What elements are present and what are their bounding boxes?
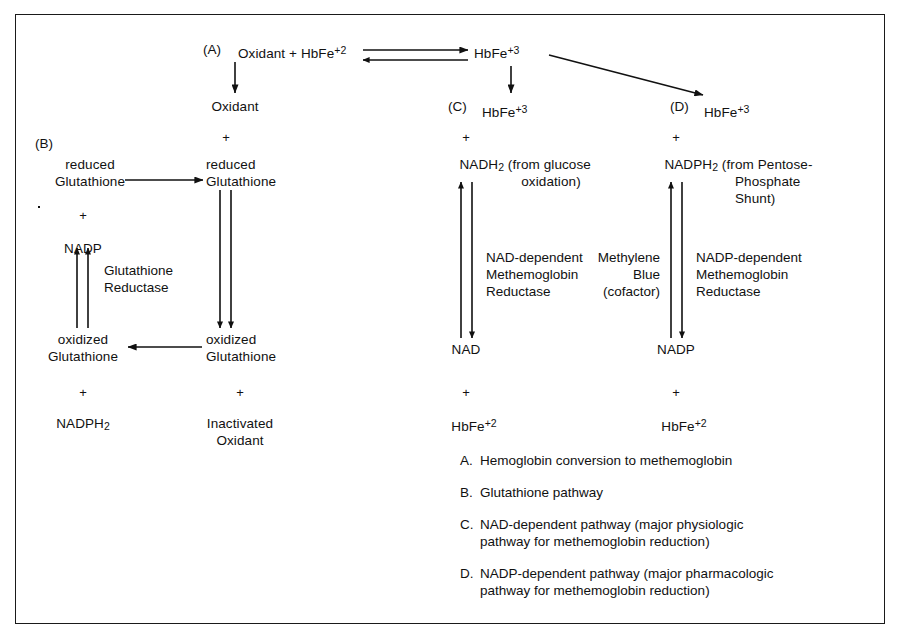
reduced-glutathione-left-line1: reduced xyxy=(65,156,115,173)
legend-key-c: C. xyxy=(460,516,480,533)
nad-node: NAD xyxy=(452,341,481,358)
reactants-label: Oxidant + HbFe+2 xyxy=(238,42,346,62)
nadph2-subscript: 2 xyxy=(104,420,110,432)
c-charge: +3 xyxy=(515,103,527,115)
nadph2-left-node: NADPH2 xyxy=(56,415,110,435)
plus-b-right-lower: + xyxy=(236,386,244,399)
nadh2-note-line1: (from glucose xyxy=(504,156,591,173)
nad-reductase-line1: NAD-dependent xyxy=(486,250,583,265)
section-b-tag: (B) xyxy=(35,136,53,151)
legend-key-d: D. xyxy=(460,565,480,582)
legend-text-a: Hemoglobin conversion to methemoglobin xyxy=(480,452,732,469)
nadph2-donor-node: NADPH2 xyxy=(664,156,718,176)
inactivated-oxidant-line2: Oxidant xyxy=(216,432,263,449)
plus-b-left-upper: + xyxy=(79,209,87,222)
reduced-glutathione-right-line2: Glutathione xyxy=(206,173,276,190)
nadh2-note-line2: oxidation) xyxy=(521,173,581,190)
nadp-acceptor-node: NADP xyxy=(657,341,695,358)
legend-text-b: Glutathione pathway xyxy=(480,484,603,501)
nadph2-note-line3: Shunt) xyxy=(735,190,775,207)
plus-d-upper: + xyxy=(672,131,680,144)
product-label: HbFe+3 xyxy=(474,42,519,62)
legend-key-a: A. xyxy=(460,452,480,469)
nadp-left-node: NADP xyxy=(64,240,102,257)
product-text: HbFe xyxy=(474,46,507,61)
glutathione-reductase-label: GlutathioneReductase xyxy=(104,262,173,296)
legend-text-d: NADP-dependent pathway (major pharmacolo… xyxy=(480,565,773,599)
d-species-text: HbFe xyxy=(704,105,737,120)
nadh2-node: NADH2 xyxy=(459,156,504,176)
d-product-text: HbFe xyxy=(661,419,694,434)
oxidized-glutathione-left-line1: oxidized xyxy=(58,331,108,348)
c-hbfe-node: HbFe+3 xyxy=(482,101,527,121)
nadp-reductase-line3: Reductase xyxy=(696,284,761,299)
section-c-tag: (C) xyxy=(448,99,467,114)
plus-c-upper: + xyxy=(462,131,470,144)
methylene-blue-label: MethyleneBlue(cofactor) xyxy=(598,249,660,300)
legend-item-c: C. NAD-dependent pathway (major physiolo… xyxy=(460,516,880,550)
methylene-blue-line2: Blue xyxy=(633,267,660,282)
methylene-blue-line3: (cofactor) xyxy=(603,284,660,299)
oxidant-node: Oxidant xyxy=(211,98,258,115)
reduced-glutathione-left-line2: Glutathione xyxy=(55,173,125,190)
diagram-figure: (A) Oxidant + HbFe+2 HbFe+3 Oxidant (C) … xyxy=(0,0,900,644)
nadph2-note-line2: Phosphate xyxy=(735,173,800,190)
d-hbfe-node: HbFe+3 xyxy=(704,101,749,121)
section-d-tag: (D) xyxy=(670,99,689,114)
legend-item-a: A. Hemoglobin conversion to methemoglobi… xyxy=(460,452,880,469)
nadh2-text: NADH xyxy=(459,157,498,172)
d-product-node: HbFe+2 xyxy=(661,415,706,435)
reactants-text: Oxidant + HbFe xyxy=(238,46,334,61)
nad-reductase-line3: Reductase xyxy=(486,284,551,299)
nadp-reductase-line1: NADP-dependent xyxy=(696,250,802,265)
d-charge: +3 xyxy=(737,103,749,115)
nad-reductase-label: NAD-dependentMethemoglobinReductase xyxy=(486,249,583,300)
nadph2-text: NADPH xyxy=(56,416,104,431)
glutathione-reductase-line1: Glutathione xyxy=(104,263,173,278)
product-charge: +3 xyxy=(507,44,519,56)
plus-b-left-lower: + xyxy=(79,386,87,399)
legend: A. Hemoglobin conversion to methemoglobi… xyxy=(460,452,880,614)
methylene-blue-line1: Methylene xyxy=(598,250,660,265)
nad-reductase-line2: Methemoglobin xyxy=(486,267,578,282)
inactivated-oxidant-line1: Inactivated xyxy=(207,415,273,432)
legend-text-c: NAD-dependent pathway (major physiologic… xyxy=(480,516,743,550)
nadph2-note-line1: (from Pentose- xyxy=(718,156,813,173)
plus-c-lower: + xyxy=(462,386,470,399)
speck-artifact xyxy=(38,206,40,208)
oxidized-glutathione-right-line2: Glutathione xyxy=(206,348,276,365)
c-product-node: HbFe+2 xyxy=(451,415,496,435)
legend-item-d: D. NADP-dependent pathway (major pharmac… xyxy=(460,565,880,599)
oxidized-glutathione-right-line1: oxidized xyxy=(206,331,256,348)
c-species-text: HbFe xyxy=(482,105,515,120)
oxidized-glutathione-left-line2: Glutathione xyxy=(48,348,118,365)
reduced-glutathione-right-line1: reduced xyxy=(206,156,256,173)
section-a-tag: (A) xyxy=(203,42,221,57)
c-product-charge: +2 xyxy=(485,417,497,429)
plus-d-lower: + xyxy=(672,386,680,399)
nadp-reductase-label: NADP-dependentMethemoglobinReductase xyxy=(696,249,802,300)
nadph2-donor-text: NADPH xyxy=(664,157,712,172)
legend-item-b: B. Glutathione pathway xyxy=(460,484,880,501)
plus-b-right-upper: + xyxy=(222,131,230,144)
c-product-text: HbFe xyxy=(451,419,484,434)
d-product-charge: +2 xyxy=(695,417,707,429)
legend-key-b: B. xyxy=(460,484,480,501)
nadp-reductase-line2: Methemoglobin xyxy=(696,267,788,282)
glutathione-reductase-line2: Reductase xyxy=(104,280,169,295)
reactants-charge: +2 xyxy=(334,44,346,56)
